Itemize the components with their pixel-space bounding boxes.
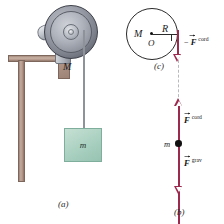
force-symbol: F (184, 115, 190, 125)
point-mass-label: m (164, 140, 170, 149)
vector-arrow-overline-icon (189, 33, 196, 37)
force-vector-shaft (178, 104, 180, 224)
force-label-f-grav: F grav (184, 158, 202, 167)
force-symbol: F (184, 158, 190, 168)
force-label-minus-f-cord: − F cord (184, 37, 209, 47)
point-mass-dot (175, 140, 182, 147)
radius-tick (171, 34, 172, 41)
hanging-block-mass-label: m (65, 129, 101, 161)
force-label-f-cord: F cord (184, 115, 202, 124)
pulley-mass-label-c: M (134, 29, 142, 39)
panel-a-pictorial: M m (a) (0, 0, 112, 224)
cord (83, 30, 85, 130)
force-symbol: F (191, 37, 197, 47)
vector-arrow-overline-icon (184, 111, 191, 115)
vector-arrow-overline-icon (184, 154, 191, 158)
force-superscript: grav (192, 157, 202, 163)
physics-figure: M m (a) M O R − F cord (0, 0, 224, 224)
pulley-mass-label-a: M (63, 62, 71, 72)
support-beam-vertical (18, 60, 25, 182)
pulley-center-label: O (148, 39, 155, 48)
minus-sign: − (184, 38, 189, 47)
arrowhead-inner-highlight-up (176, 101, 182, 106)
force-superscript: cord (192, 114, 202, 120)
force-superscript: cord (198, 36, 208, 42)
arrowhead-inner-highlight-down (176, 187, 182, 192)
dashed-connector-line (178, 60, 179, 102)
hanging-block: m (64, 128, 102, 162)
force-vector-cord-reaction-shaft (177, 30, 179, 56)
pulley-radius-label: R (162, 24, 168, 34)
panel-letter-b: (b) (174, 208, 185, 217)
panel-b-block-fbd: m F cord F g (112, 60, 224, 224)
panel-letter-a: (a) (58, 200, 69, 209)
pulley-axle (68, 29, 74, 35)
